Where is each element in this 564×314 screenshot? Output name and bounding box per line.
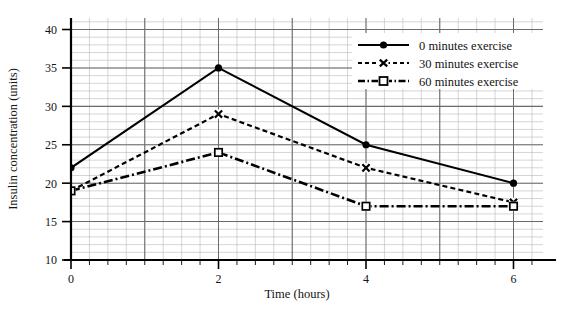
line-chart-svg: 10152025303540 0246 Time (hours) Insulin… (0, 0, 564, 314)
data-point (214, 148, 223, 157)
data-point (215, 64, 222, 71)
data-point (509, 202, 518, 211)
legend-label-30-minutes: 30 minutes exercise (419, 57, 519, 71)
data-point (362, 141, 369, 148)
data-point (361, 202, 370, 211)
chart-legend: 0 minutes exercise 30 minutes exercise 6… (352, 33, 544, 89)
data-point (361, 163, 370, 172)
marker-filled-circle (215, 64, 222, 71)
y-tick-label: 15 (45, 215, 57, 229)
y-tick-label: 25 (45, 138, 57, 152)
y-axis-title: Insulin concentration (units) (6, 68, 20, 210)
marker-open-square (362, 203, 369, 210)
x-tick-label: 4 (363, 272, 369, 286)
y-tick-label: 30 (45, 100, 57, 114)
y-tick-label: 20 (45, 177, 57, 191)
x-tick-label: 0 (68, 272, 74, 286)
legend-open-square-icon (380, 77, 388, 85)
data-point (510, 180, 517, 187)
y-tick-label: 40 (45, 23, 57, 37)
data-point (214, 109, 223, 118)
legend-filled-circle-icon (380, 41, 387, 48)
x-tick-label: 2 (216, 272, 222, 286)
x-tick-label: 6 (511, 272, 517, 286)
marker-filled-circle (510, 180, 517, 187)
legend-label-60-minutes: 60 minutes exercise (419, 75, 519, 89)
marker-open-square (215, 149, 222, 156)
y-tick-label: 35 (45, 61, 57, 75)
marker-open-square (510, 203, 517, 210)
marker-filled-circle (362, 141, 369, 148)
legend-label-0-minutes: 0 minutes exercise (419, 39, 512, 53)
y-tick-label: 10 (45, 253, 57, 267)
x-axis-title: Time (hours) (264, 287, 329, 301)
chart-figure: 10152025303540 0246 Time (hours) Insulin… (0, 0, 564, 314)
